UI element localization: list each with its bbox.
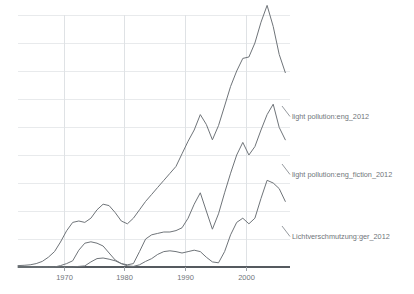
series-label-lichtverschmutzung-ger-2012[interactable]: Lichtverschmutzung:ger_2012 xyxy=(292,232,390,241)
line-chart: 1970 1980 1990 2000 light pollution:eng_… xyxy=(0,0,414,294)
horizontal-gridlines xyxy=(18,16,290,240)
series-line-lichtverschmutzung-ger-2012[interactable] xyxy=(18,180,285,267)
x-tick-label-2000: 2000 xyxy=(238,273,255,282)
x-tick-label-1990: 1990 xyxy=(177,273,194,282)
leader-line-series-3 xyxy=(282,226,290,237)
series-label-light-pollution-eng-fiction-2012[interactable]: light pollution:eng_fiction_2012 xyxy=(292,170,392,179)
series-label-light-pollution-eng-2012[interactable]: light pollution:eng_2012 xyxy=(292,112,369,121)
label-leader-lines xyxy=(282,106,290,237)
leader-line-series-2 xyxy=(282,164,290,175)
x-tick-label-1970: 1970 xyxy=(56,273,73,282)
ngram-chart-page: 1970 1980 1990 2000 light pollution:eng_… xyxy=(0,0,414,294)
series-line-light-pollution-eng-2012[interactable] xyxy=(18,5,285,265)
series-line-light-pollution-eng-fiction-2012[interactable] xyxy=(18,104,285,267)
vertical-gridlines xyxy=(65,15,247,267)
leader-line-series-1 xyxy=(282,106,290,117)
x-tick-label-1980: 1980 xyxy=(116,273,133,282)
